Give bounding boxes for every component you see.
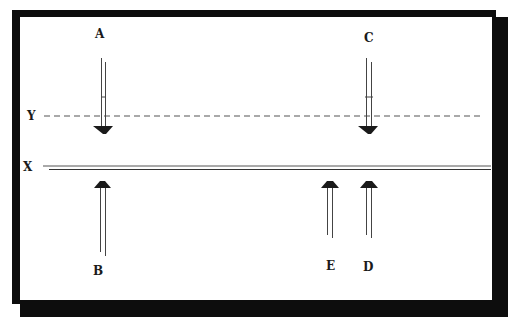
arrow-c-label: C (364, 31, 374, 45)
line-x-label: X (23, 160, 33, 174)
frame-interior (20, 17, 492, 300)
arrow-d-label: D (363, 260, 373, 274)
line-y-label: Y (26, 109, 36, 123)
frame (12, 10, 508, 317)
arrow-b-label: B (93, 264, 103, 278)
arrow-e-label: E (326, 259, 335, 273)
arrow-a-label: A (94, 27, 105, 41)
diagram-canvas: Y X A C B E D (0, 0, 515, 325)
